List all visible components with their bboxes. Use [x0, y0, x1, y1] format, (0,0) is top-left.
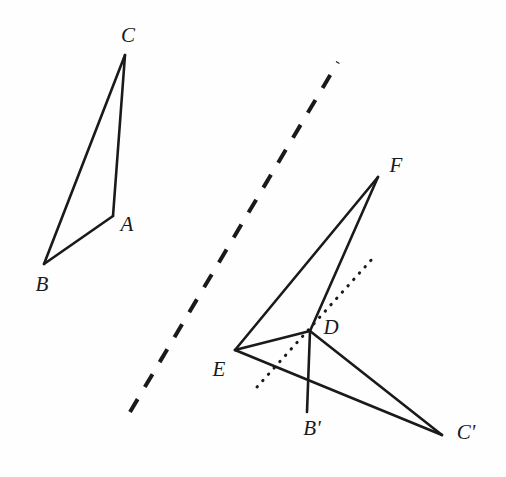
solid-segment-group: [44, 55, 442, 435]
segment-D-E: [235, 331, 310, 350]
label-F: F: [390, 155, 403, 176]
segment-D-Cp: [310, 331, 442, 435]
label-D: D: [323, 317, 338, 338]
segment-C-B: [44, 55, 125, 264]
label-Cp: C': [457, 422, 476, 443]
geometry-figure: CABFDEB'C': [0, 0, 506, 477]
figure-canvas: [0, 0, 506, 477]
mirror-line: [130, 62, 338, 412]
label-B: B: [36, 274, 49, 295]
label-E: E: [213, 359, 226, 380]
label-Bp: B': [303, 418, 320, 439]
label-A: A: [121, 214, 134, 235]
segment-E-Cp: [235, 350, 442, 435]
label-C: C: [121, 25, 135, 46]
segment-D-Bp: [307, 331, 310, 412]
segment-F-D: [310, 177, 378, 331]
